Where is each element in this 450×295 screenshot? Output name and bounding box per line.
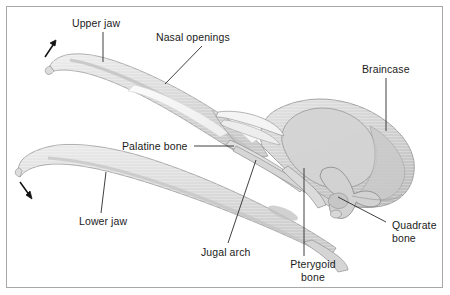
motion-arrows: [20, 40, 56, 199]
label-braincase: Braincase: [362, 63, 410, 76]
jaw-articulation: [331, 210, 342, 218]
label-upper-jaw: Upper jaw: [72, 17, 120, 30]
label-jugal-arch: Jugal arch: [201, 246, 250, 259]
label-palatine-bone: Palatine bone: [122, 140, 188, 153]
upper-jaw-motion-arrow: [45, 40, 56, 57]
label-pterygoid-bone-line2: bone: [283, 271, 343, 284]
label-quadrate-bone-line2: bone: [392, 232, 448, 245]
label-nasal-openings: Nasal openings: [156, 31, 230, 44]
label-pterygoid-bone-line1: Pterygoid: [283, 258, 343, 271]
label-pterygoid-bone: Pterygoid bone: [283, 258, 343, 283]
label-lower-jaw: Lower jaw: [79, 215, 127, 228]
label-quadrate-bone-line1: Quadrate: [392, 219, 448, 232]
leader-nasal-openings: [165, 46, 202, 84]
label-quadrate-bone: Quadrate bone: [392, 219, 448, 244]
bird-skull-figure: Upper jaw Nasal openings Braincase Palat…: [0, 0, 450, 295]
leader-lower-jaw: [101, 172, 106, 213]
lower-jaw-motion-arrow: [20, 182, 32, 199]
